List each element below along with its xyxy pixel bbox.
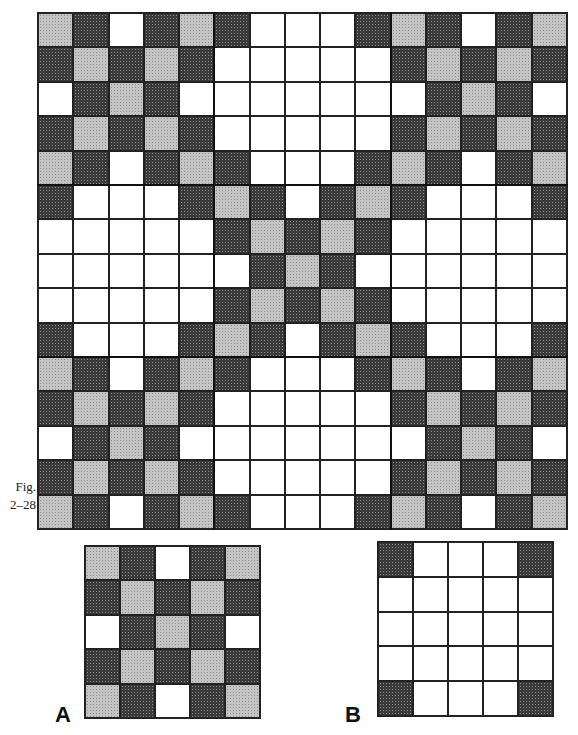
quilt-cell bbox=[179, 47, 214, 81]
quilt-cell bbox=[285, 323, 320, 357]
quilt-cell bbox=[285, 357, 320, 391]
block-b-cell bbox=[483, 646, 518, 681]
quilt-cell bbox=[496, 357, 531, 391]
quilt-cell bbox=[250, 47, 285, 81]
quilt-cell bbox=[73, 13, 108, 47]
quilt-cell bbox=[320, 116, 355, 150]
quilt-cell bbox=[285, 185, 320, 219]
block-b-cell bbox=[448, 577, 483, 612]
quilt-cell bbox=[496, 254, 531, 288]
quilt-cell bbox=[73, 116, 108, 150]
quilt-cell bbox=[532, 82, 567, 116]
block-a-cell bbox=[190, 649, 225, 683]
quilt-cell bbox=[532, 495, 567, 529]
quilt-cell bbox=[73, 47, 108, 81]
quilt-cell bbox=[355, 82, 390, 116]
quilt-cell bbox=[73, 495, 108, 529]
quilt-cell bbox=[73, 151, 108, 185]
quilt-cell bbox=[320, 391, 355, 425]
quilt-cell bbox=[320, 219, 355, 253]
block-divider-horizontal bbox=[37, 184, 568, 186]
block-a-cell bbox=[155, 580, 190, 614]
quilt-cell bbox=[426, 151, 461, 185]
block-a-cell bbox=[190, 615, 225, 649]
quilt-cell bbox=[109, 323, 144, 357]
quilt-cell bbox=[144, 185, 179, 219]
quilt-cell bbox=[496, 116, 531, 150]
quilt-cell bbox=[355, 288, 390, 322]
quilt-cell bbox=[391, 219, 426, 253]
quilt-cell bbox=[320, 357, 355, 391]
quilt-cell bbox=[320, 82, 355, 116]
block-a-cell bbox=[225, 546, 260, 580]
quilt-cell bbox=[73, 357, 108, 391]
quilt-cell bbox=[461, 426, 496, 460]
quilt-cell bbox=[144, 151, 179, 185]
block-a-cell bbox=[190, 580, 225, 614]
quilt-cell bbox=[461, 13, 496, 47]
quilt-cell bbox=[73, 219, 108, 253]
quilt-cell bbox=[391, 426, 426, 460]
quilt-cell bbox=[38, 151, 73, 185]
quilt-cell bbox=[285, 13, 320, 47]
block-a-cell bbox=[225, 615, 260, 649]
quilt-cell bbox=[496, 13, 531, 47]
quilt-cell bbox=[355, 495, 390, 529]
quilt-cell bbox=[461, 219, 496, 253]
block-b-cell bbox=[448, 542, 483, 577]
quilt-cell bbox=[320, 426, 355, 460]
quilt-cell bbox=[391, 254, 426, 288]
block-b-grid bbox=[377, 541, 554, 717]
quilt-cell bbox=[73, 254, 108, 288]
quilt-cell bbox=[144, 47, 179, 81]
quilt-cell bbox=[461, 323, 496, 357]
quilt-cell bbox=[250, 82, 285, 116]
quilt-cell bbox=[109, 13, 144, 47]
quilt-cell bbox=[461, 254, 496, 288]
quilt-cell bbox=[426, 254, 461, 288]
quilt-cell bbox=[250, 116, 285, 150]
quilt-cell bbox=[496, 495, 531, 529]
quilt-cell bbox=[38, 288, 73, 322]
quilt-cell bbox=[461, 47, 496, 81]
block-b-cell bbox=[378, 646, 413, 681]
quilt-cell bbox=[214, 82, 249, 116]
quilt-cell bbox=[144, 116, 179, 150]
quilt-cell bbox=[109, 357, 144, 391]
quilt-cell bbox=[461, 82, 496, 116]
quilt-cell bbox=[214, 323, 249, 357]
block-b-cell bbox=[378, 577, 413, 612]
quilt-cell bbox=[38, 391, 73, 425]
quilt-cell bbox=[391, 47, 426, 81]
quilt-cell bbox=[214, 254, 249, 288]
quilt-cell bbox=[214, 151, 249, 185]
quilt-cell bbox=[73, 82, 108, 116]
block-a-cell bbox=[120, 684, 155, 718]
quilt-cell bbox=[391, 185, 426, 219]
quilt-cell bbox=[426, 323, 461, 357]
quilt-cell bbox=[38, 357, 73, 391]
block-a-cell bbox=[155, 684, 190, 718]
quilt-cell bbox=[426, 495, 461, 529]
quilt-cell bbox=[496, 219, 531, 253]
quilt-cell bbox=[179, 151, 214, 185]
block-divider-horizontal bbox=[37, 356, 568, 358]
quilt-cell bbox=[320, 288, 355, 322]
quilt-cell bbox=[144, 13, 179, 47]
quilt-cell bbox=[179, 426, 214, 460]
quilt-cell bbox=[461, 288, 496, 322]
quilt-cell bbox=[38, 116, 73, 150]
block-b-cell bbox=[413, 681, 448, 716]
quilt-cell bbox=[144, 357, 179, 391]
quilt-cell bbox=[179, 254, 214, 288]
quilt-cell bbox=[144, 391, 179, 425]
quilt-cell bbox=[73, 460, 108, 494]
quilt-cell bbox=[285, 82, 320, 116]
block-b-cell bbox=[378, 542, 413, 577]
quilt-cell bbox=[320, 185, 355, 219]
quilt-cell bbox=[109, 254, 144, 288]
quilt-cell bbox=[109, 185, 144, 219]
block-b-cell bbox=[448, 646, 483, 681]
block-divider-vertical bbox=[390, 12, 392, 530]
quilt-cell bbox=[320, 460, 355, 494]
